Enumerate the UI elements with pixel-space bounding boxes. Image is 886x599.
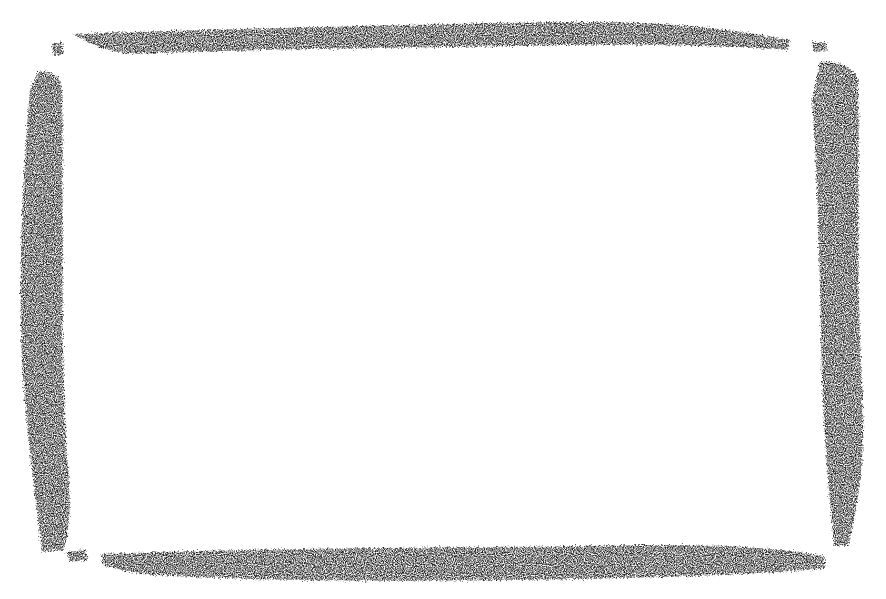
right-stroke bbox=[812, 62, 863, 546]
frame-interior bbox=[70, 55, 810, 545]
canvas bbox=[0, 0, 886, 599]
top-stroke bbox=[72, 22, 790, 54]
left-stroke bbox=[21, 72, 70, 552]
bottom-stroke bbox=[100, 545, 826, 581]
